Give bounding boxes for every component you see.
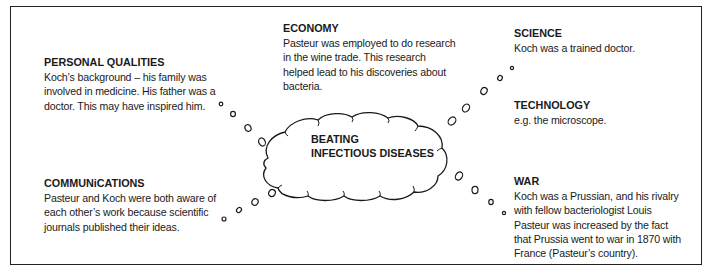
node-body: e.g. the microscope. xyxy=(514,113,606,127)
node-body: Pasteur and Koch were both aware of each… xyxy=(44,191,216,234)
bubble-chain-personal-qualities xyxy=(219,102,266,147)
bubble-chain-science xyxy=(447,66,514,126)
node-body: Koch was a Prussian, and his rivalry wit… xyxy=(514,189,681,260)
node-war: WAR Koch was a Prussian, and his rivalry… xyxy=(514,174,681,260)
node-title: SCIENCE xyxy=(514,26,635,40)
node-title: TECHNOLOGY xyxy=(514,98,606,112)
node-title: WAR xyxy=(514,174,681,188)
node-body: Koch’s background – his family was invol… xyxy=(44,70,216,113)
node-body: Pasteur was employed to do research in t… xyxy=(283,36,456,93)
node-science: SCIENCE Koch was a trained doctor. xyxy=(514,26,635,55)
central-topic: BEATING INFECTIOUS DISEASES xyxy=(311,132,434,160)
node-title: ECONOMY xyxy=(283,21,456,35)
node-technology: TECHNOLOGY e.g. the microscope. xyxy=(514,98,606,127)
node-title: COMMUNiCATIONS xyxy=(44,176,216,190)
node-title: PERSONAL QUALITIES xyxy=(44,55,216,69)
bubble-chain-war xyxy=(454,171,506,215)
node-body: Koch was a trained doctor. xyxy=(514,41,635,55)
node-communications: COMMUNiCATIONS Pasteur and Koch were bot… xyxy=(44,176,216,234)
node-personal-qualities: PERSONAL QUALITIES Koch’s background – h… xyxy=(44,55,216,113)
node-economy: ECONOMY Pasteur was employed to do resea… xyxy=(283,21,456,93)
bubble-chain-communications xyxy=(222,188,277,221)
